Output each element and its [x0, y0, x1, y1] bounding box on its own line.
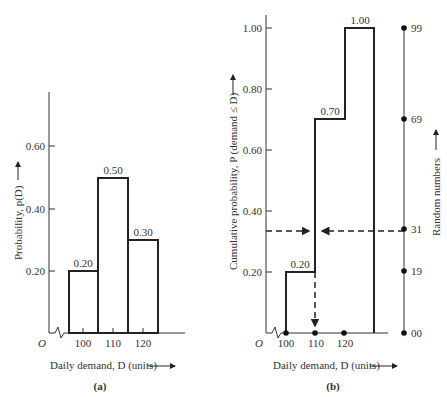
- x-tick-label: 100: [75, 337, 92, 349]
- bar-110: [98, 178, 128, 333]
- step-value-label: 0.70: [320, 105, 340, 117]
- bar-120: [128, 240, 158, 333]
- y-axis-label: Cumulative probability, P (demand ≤ D): [227, 92, 240, 270]
- origin-label: O: [38, 337, 46, 349]
- random-number-tick-label: 00: [411, 327, 423, 339]
- y-tick-label: 0.40: [26, 203, 46, 215]
- y-tick-label: 1.00: [243, 22, 263, 34]
- random-number-tick-label: 31: [411, 223, 422, 235]
- random-number-axis-label: Random numbers: [430, 158, 442, 236]
- y-tick-label: 0.80: [243, 83, 263, 95]
- x-tick-label: 110: [308, 337, 325, 349]
- x-tick-label: 120: [337, 337, 354, 349]
- x-axis-label: Daily demand, D (units): [273, 359, 380, 372]
- y-tick-label: 0.60: [243, 144, 263, 156]
- bar-100: [69, 271, 98, 333]
- x-tick-label: 120: [135, 337, 152, 349]
- bar-value-label: 0.30: [133, 226, 153, 238]
- step-value-label: 1.00: [350, 14, 370, 26]
- bar-value-label: 0.20: [73, 257, 93, 269]
- bars-a: [69, 178, 158, 333]
- origin-label: O: [255, 337, 263, 349]
- y-tick-label: 0.60: [26, 140, 46, 152]
- bar-value-label: 0.50: [103, 164, 123, 176]
- y-ticks-a: 0.20 0.40 0.60: [26, 140, 55, 277]
- x-ticks-a: 100 110 120: [75, 328, 152, 349]
- cumulative-step-line: [286, 28, 374, 333]
- panel-label-b: (b): [326, 380, 340, 393]
- chart-b: 0.20 0.40 0.60 0.80 1.00 0.20 0.70 1.00 …: [227, 14, 442, 393]
- chart-a: 0.20 0.40 0.60 0.20 0.50 0.30 100 110 12…: [12, 92, 185, 393]
- y-tick-label: 0.20: [243, 266, 263, 278]
- y-tick-label: 0.40: [243, 205, 263, 217]
- figure: 0.20 0.40 0.60 0.20 0.50 0.30 100 110 12…: [0, 0, 447, 397]
- random-number-axis: 00 19 31 69 99 Random numbers: [401, 22, 442, 339]
- x-tick-label: 110: [105, 337, 122, 349]
- x-axis-label: Daily demand, D (units): [50, 359, 157, 372]
- y-tick-label: 0.20: [26, 265, 46, 277]
- random-number-tick-label: 99: [411, 22, 423, 34]
- step-value-label: 0.20: [290, 258, 310, 270]
- random-number-tick-label: 19: [411, 265, 423, 277]
- panel-label-a: (a): [94, 380, 107, 393]
- x-tick-label: 100: [278, 337, 295, 349]
- y-axis-label: Probability, p(D): [12, 185, 25, 260]
- y-ticks-b: 0.20 0.40 0.60 0.80 1.00: [243, 22, 272, 278]
- random-number-tick-label: 69: [411, 113, 423, 125]
